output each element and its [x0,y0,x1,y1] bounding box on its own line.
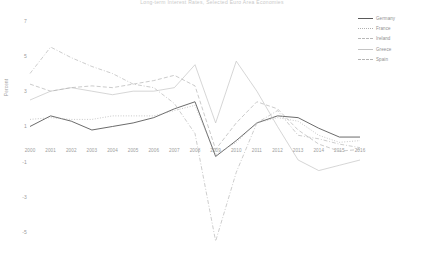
legend-item[interactable]: Germany [358,13,424,23]
legend-item[interactable]: Greece [358,44,424,54]
y-axis-tick: 3 [13,88,27,94]
y-axis-label: Percent [4,56,9,96]
y-axis-tick: 7 [13,18,27,24]
legend-label: France [376,26,391,31]
series-lines [30,10,360,250]
series-line [30,75,360,151]
legend-item[interactable]: France [358,23,424,33]
y-axis-tick: 5 [13,53,27,59]
y-axis-tick: -3 [13,194,27,200]
plot-area [30,10,360,250]
chart-legend: GermanyFranceIrelandGreeceSpain [358,13,424,65]
series-line [30,47,360,241]
legend-swatch-icon [358,49,373,50]
chart-root: Long-term Interest Rates, Selected Euro … [0,0,424,265]
legend-label: Greece [376,47,391,52]
series-line [30,102,360,157]
chart-title: Long-term Interest Rates, Selected Euro … [0,0,424,5]
legend-label: Spain [376,57,388,62]
legend-item[interactable]: Ireland [358,34,424,44]
legend-swatch-icon [358,18,373,19]
legend-label: Germany [376,16,395,21]
legend-item[interactable]: Spain [358,55,424,65]
legend-label: Ireland [376,36,390,41]
y-axis-tick: 1 [13,123,27,129]
y-axis-tick: -1 [13,159,27,165]
legend-swatch-icon [358,38,373,39]
y-axis-tick: -5 [13,229,27,235]
legend-swatch-icon [358,59,373,60]
series-line [30,61,360,170]
legend-swatch-icon [358,28,373,29]
series-line [30,105,360,154]
